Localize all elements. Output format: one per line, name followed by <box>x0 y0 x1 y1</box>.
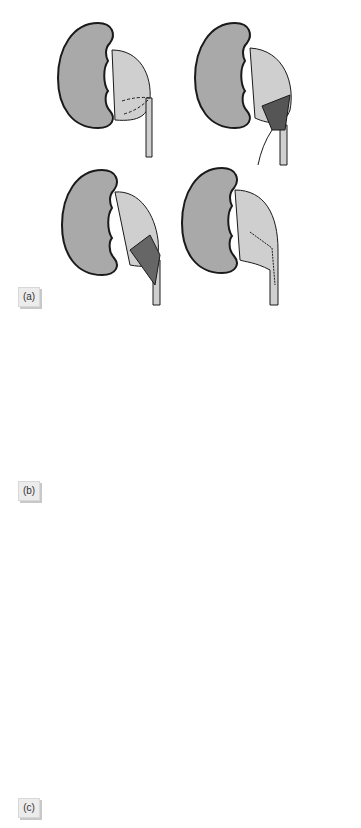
pyeloplasty-diagram <box>0 0 361 828</box>
panel-label-b: (b) <box>18 481 40 501</box>
panel-a <box>58 23 291 305</box>
panel-label-a: (a) <box>18 287 40 307</box>
panel-label-c: (c) <box>18 798 40 818</box>
